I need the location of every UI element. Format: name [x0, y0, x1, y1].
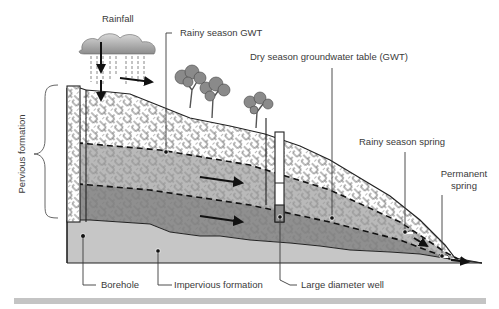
permanent-spring-label-1: Permanent	[441, 168, 488, 179]
groundwater-diagram: Pervious formation Rainfall Rainy season…	[0, 0, 499, 309]
pervious-formation-brace	[34, 85, 58, 218]
footer-bar	[14, 298, 486, 304]
permanent-spring-label-2: spring	[451, 180, 477, 191]
rainy-gwt-marker	[164, 150, 169, 155]
pervious-formation-label: Pervious formation	[16, 114, 27, 193]
rainfall-label: Rainfall	[102, 13, 134, 24]
borehole-marker	[81, 234, 86, 239]
well-label: Large diameter well	[301, 279, 384, 290]
rainy-spring-label: Rainy season spring	[359, 136, 445, 147]
dry-gwt-marker	[330, 216, 335, 221]
rainy-gwt-label: Rainy season GWT	[180, 27, 263, 38]
well-marker	[278, 215, 283, 220]
borehole-label: Borehole	[101, 279, 139, 290]
impervious-marker	[156, 249, 161, 254]
permanent-spring-marker	[440, 254, 445, 259]
rainy-spring-marker	[403, 230, 408, 235]
dry-gwt-label: Dry season groundwater table (GWT)	[250, 51, 408, 62]
impervious-label: Impervious formation	[174, 279, 263, 290]
